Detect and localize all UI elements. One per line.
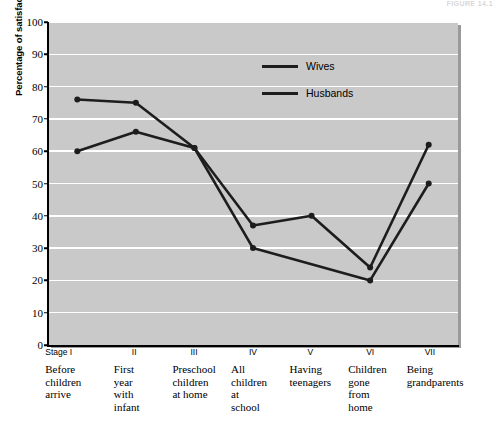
x-stage-description-5: Having teenagers — [290, 363, 332, 388]
x-stage-description-6: Children gone from home — [348, 363, 387, 413]
plot-area — [48, 22, 458, 345]
data-point-wives-vii — [426, 181, 432, 187]
y-tick-label: 80 — [32, 81, 43, 93]
legend-label-husbands: Husbands — [306, 87, 353, 99]
x-label-group-1: Stage IBefore children arrive — [45, 347, 81, 401]
data-point-wives-ii — [133, 100, 139, 106]
data-point-husbands-stage-i — [74, 148, 80, 154]
legend-line-icon-husbands — [262, 92, 298, 95]
x-stage-label-7: VII — [407, 347, 464, 358]
data-point-wives-iv — [250, 245, 256, 251]
x-stage-label-1: Stage I — [45, 347, 81, 358]
data-point-husbands-v — [309, 213, 315, 219]
y-tick-label: 60 — [32, 145, 43, 157]
x-stage-description-1: Before children arrive — [45, 363, 81, 401]
legend-item-wives: Wives — [262, 60, 353, 72]
x-stage-label-3: III — [172, 347, 215, 358]
data-point-husbands-iii — [191, 145, 197, 151]
y-tick-label: 70 — [32, 113, 43, 125]
x-label-group-3: IIIPreschool children at home — [172, 347, 215, 401]
x-stage-label-6: VI — [348, 347, 387, 358]
y-tick-label: 40 — [32, 210, 43, 222]
x-stage-description-7: Being grandparents — [407, 363, 464, 388]
data-point-husbands-vi — [367, 264, 373, 270]
data-point-wives-vi — [367, 277, 373, 283]
y-axis-title: Percentage of satisfaction with marriage — [13, 0, 24, 96]
x-axis-labels: Stage IBefore children arriveIIFirst yea… — [0, 347, 499, 422]
y-tick-label: 50 — [32, 178, 43, 190]
series-lines-layer — [48, 22, 458, 345]
x-stage-description-3: Preschool children at home — [172, 363, 215, 401]
x-label-group-6: VIChildren gone from home — [348, 347, 387, 413]
y-tick-label: 20 — [32, 274, 43, 286]
legend-item-husbands: Husbands — [262, 87, 353, 99]
data-point-husbands-ii — [133, 129, 139, 135]
data-point-husbands-iv — [250, 222, 256, 228]
x-label-group-7: VIIBeing grandparents — [407, 347, 464, 388]
legend-label-wives: Wives — [306, 60, 335, 72]
cut-off-header-text: FIGURE 14.1 — [447, 0, 493, 6]
y-axis-title-label: Percentage of satisfaction with marriage — [13, 0, 24, 96]
x-label-group-2: IIFirst year with infant — [114, 347, 140, 413]
x-stage-description-4: All children at school — [231, 363, 267, 413]
x-stage-label-2: II — [114, 347, 140, 358]
y-tick-label: 30 — [32, 242, 43, 254]
y-axis-line — [47, 22, 49, 346]
x-stage-label-4: IV — [231, 347, 267, 358]
y-tick-label: 100 — [27, 16, 44, 28]
data-point-wives-stage-i — [74, 97, 80, 103]
y-tick-label: 10 — [32, 307, 43, 319]
marriage-satisfaction-chart: FIGURE 14.1 Percentage of satisfaction w… — [0, 0, 499, 422]
x-stage-description-2: First year with infant — [114, 363, 140, 413]
y-tick-label: 90 — [32, 48, 43, 60]
data-point-husbands-vii — [426, 142, 432, 148]
x-label-group-4: IVAll children at school — [231, 347, 267, 413]
x-label-group-5: VHaving teenagers — [290, 347, 332, 388]
x-stage-label-5: V — [290, 347, 332, 358]
chart-legend: Wives Husbands — [262, 60, 353, 114]
legend-line-icon-wives — [262, 65, 298, 68]
